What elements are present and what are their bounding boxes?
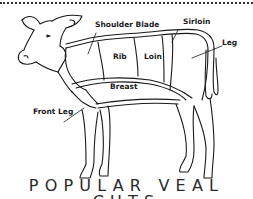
label-rib: Rib: [113, 53, 127, 61]
calf-head: [18, 15, 82, 92]
label-loin: Loin: [144, 53, 162, 61]
label-shoulder-blade: Shoulder Blade: [95, 21, 159, 29]
label-leg: Leg: [222, 39, 237, 47]
diagram-title: POPULAR VEAL CUTS: [0, 178, 253, 199]
calf-illustration: [0, 0, 253, 199]
calf-legs: [80, 98, 214, 178]
label-sirloin: Sirloin: [183, 18, 210, 26]
leader-lines: [64, 30, 222, 122]
calf-body-outline: [65, 29, 218, 108]
label-front-leg: Front Leg: [33, 108, 73, 116]
label-breast: Breast: [110, 83, 138, 91]
